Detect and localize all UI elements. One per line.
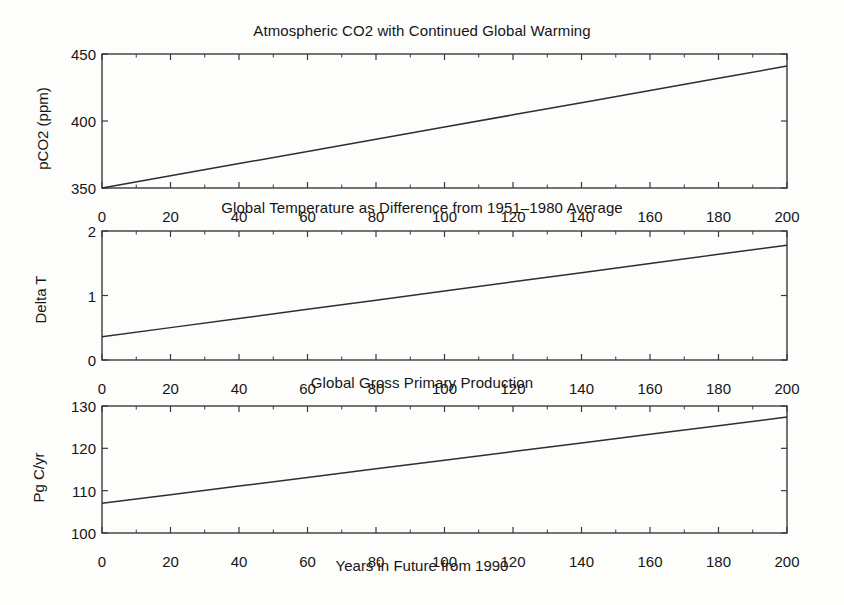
x-tick-label: 40 [231,553,248,570]
y-tick-label: 100 [40,525,96,542]
panel-2-plot [0,199,844,384]
panel-3-title: Global Gross Primary Production [0,374,844,391]
y-tick-label: 1 [40,287,96,304]
panel-pco2: Atmospheric CO2 with Continued Global Wa… [0,22,844,212]
panel-2-title: Global Temperature as Difference from 19… [0,199,844,216]
y-tick-label: 130 [40,398,96,415]
figure-canvas: Atmospheric CO2 with Continued Global Wa… [0,0,844,605]
panel-delta-t: Global Temperature as Difference from 19… [0,199,844,384]
x-tick-label: 100 [432,553,457,570]
panel-1-title: Atmospheric CO2 with Continued Global Wa… [0,22,844,39]
x-tick-label: 20 [162,553,179,570]
y-tick-label: 450 [40,46,96,63]
y-tick-label: 120 [40,440,96,457]
y-tick-label: 0 [40,352,96,369]
x-tick-label: 180 [706,553,731,570]
y-tick-label: 110 [40,482,96,499]
x-tick-label: 120 [500,553,525,570]
x-tick-label: 200 [774,553,799,570]
panel-gpp: Global Gross Primary Production Pg C/yr … [0,374,844,605]
panel-1-plot [0,22,844,212]
y-tick-label: 350 [40,180,96,197]
x-tick-label: 0 [98,553,106,570]
y-tick-label: 2 [40,223,96,240]
x-tick-label: 80 [368,553,385,570]
x-tick-label: 60 [299,553,316,570]
panel-3-ylabel: Pg C/yr [30,418,47,538]
x-tick-label: 140 [569,553,594,570]
x-tick-label: 160 [637,553,662,570]
y-tick-label: 400 [40,113,96,130]
